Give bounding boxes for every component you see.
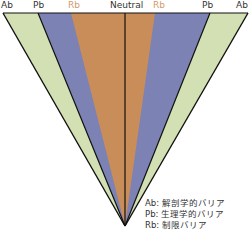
legend-item-ab: Ab: 解剖学的バリア (145, 198, 225, 209)
legend: Ab: 解剖学的バリア Pb: 生理学的バリア Rb: 制限バリア (145, 198, 225, 231)
legend-item-pb: Pb: 生理学的バリア (145, 209, 225, 220)
legend-item-rb: Rb: 制限バリア (145, 220, 225, 231)
